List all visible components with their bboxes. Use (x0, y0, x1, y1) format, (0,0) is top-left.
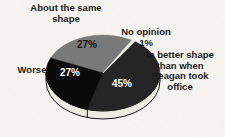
value-label-same-shape: 27% (71, 39, 103, 51)
pie-chart-figure: About the same shape No opinion 1% In be… (0, 0, 225, 137)
label-no-opinion: No opinion 1% (112, 26, 180, 48)
label-worse: Worse (10, 64, 54, 76)
value-label-worse: 27% (54, 67, 86, 79)
label-in-better-shape: In better shape than when Reagan took of… (138, 50, 222, 92)
value-label-better-shape: 45% (106, 78, 138, 90)
label-about-the-same-shape: About the same shape (8, 2, 124, 24)
